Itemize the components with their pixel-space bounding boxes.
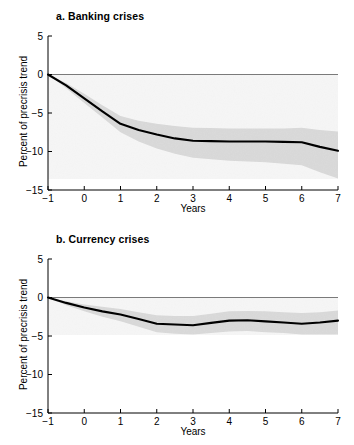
panel-currency-crises: b. Currency crises Percent of precrisis … — [0, 223, 354, 445]
x-tick-label: 4 — [226, 193, 232, 204]
x-tick-label: 3 — [190, 193, 196, 204]
x-tick-label: 0 — [81, 193, 87, 204]
y-tick-label: 0 — [37, 292, 43, 303]
axis-lines — [48, 36, 338, 190]
x-tick-label: 4 — [226, 416, 232, 427]
x-tick-label: 2 — [154, 193, 160, 204]
x-tick-label: 7 — [335, 416, 341, 427]
y-tick-label: −10 — [26, 369, 43, 380]
x-tick-label: −1 — [42, 416, 54, 427]
y-tick-label: 0 — [37, 69, 43, 80]
x-tick-label: 5 — [263, 193, 269, 204]
x-tick-label: 3 — [190, 416, 196, 427]
y-tick-label: −15 — [26, 185, 43, 196]
y-tick-label: −15 — [26, 408, 43, 419]
x-tick-label: 5 — [263, 416, 269, 427]
x-tick-label: 0 — [81, 416, 87, 427]
axis-lines — [48, 259, 338, 413]
x-tick-label: −1 — [42, 193, 54, 204]
confidence-band — [48, 298, 338, 335]
panel-a-plot: 50−5−10−15−101234567 — [0, 0, 354, 222]
x-tick-label: 6 — [299, 416, 305, 427]
x-tick-label: 2 — [154, 416, 160, 427]
x-tick-label: 1 — [118, 193, 124, 204]
x-tick-label: 6 — [299, 193, 305, 204]
y-tick-label: −5 — [32, 331, 44, 342]
panel-b-plot: 50−5−10−15−101234567 — [0, 223, 354, 445]
y-tick-label: −10 — [26, 146, 43, 157]
panel-banking-crises: a. Banking crises Percent of precrisis t… — [0, 0, 354, 222]
y-tick-label: 5 — [37, 31, 43, 42]
x-tick-label: 7 — [335, 193, 341, 204]
x-tick-label: 1 — [118, 416, 124, 427]
y-tick-label: 5 — [37, 254, 43, 265]
y-tick-label: −5 — [32, 108, 44, 119]
confidence-band — [48, 75, 338, 179]
figure-two-panel-crisis-output: a. Banking crises Percent of precrisis t… — [0, 0, 354, 445]
